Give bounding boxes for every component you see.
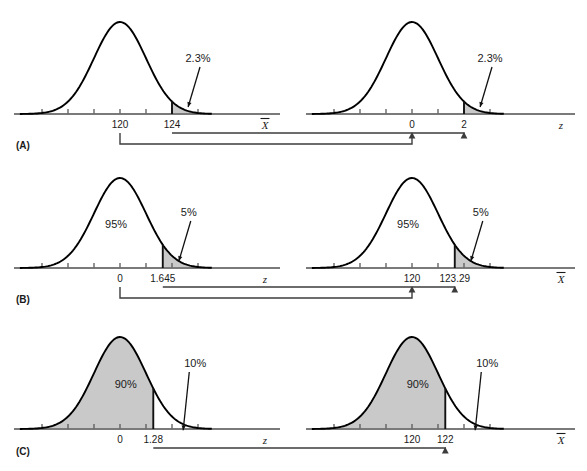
critical-value-label: 1.28	[144, 434, 164, 445]
body-percentage-label: 90%	[115, 378, 137, 390]
critical-value-label: 2	[461, 119, 467, 130]
body-percentage-label: 95%	[397, 218, 419, 230]
tail-percentage-label: 5%	[181, 206, 197, 218]
center-tick-label: 0	[409, 119, 415, 130]
tail-percentage-label: 2.3%	[477, 52, 502, 64]
critical-value-label: 123.29	[439, 273, 470, 284]
center-tick-label: 0	[117, 273, 123, 284]
panel-label-b: (B)	[16, 294, 30, 305]
axis-variable-label: z	[262, 273, 268, 285]
critical-value-label: 124	[164, 119, 181, 130]
critical-value-label: 122	[437, 434, 454, 445]
center-tick-label: 120	[404, 273, 421, 284]
axis-variable-label: X	[557, 273, 566, 285]
tail-percentage-label: 10%	[184, 357, 206, 369]
center-tick-label: 120	[112, 119, 129, 130]
center-tick-label: 0	[117, 434, 123, 445]
tail-percentage-label: 5%	[473, 206, 489, 218]
statistics-figure: 120124X2.3%02z2.3%01.645z95%5%120123.29X…	[0, 0, 587, 471]
body-percentage-label: 90%	[407, 378, 429, 390]
axis-variable-label: z	[558, 119, 564, 131]
tail-percentage-label: 10%	[476, 357, 498, 369]
tail-percentage-label: 2.3%	[185, 52, 210, 64]
axis-variable-label: X	[557, 434, 566, 446]
center-tick-label: 120	[404, 434, 421, 445]
panel-label-c: (C)	[16, 446, 30, 457]
axis-variable-label: X	[261, 119, 270, 131]
panel-label-a: (A)	[16, 140, 30, 151]
axis-variable-label: z	[262, 434, 268, 446]
body-percentage-label: 95%	[105, 218, 127, 230]
critical-value-label: 1.645	[150, 273, 175, 284]
